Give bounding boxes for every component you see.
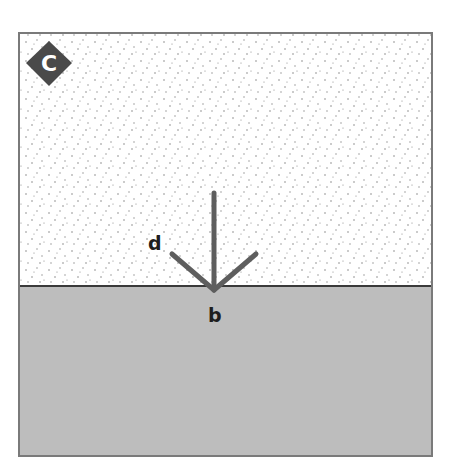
diagram: d b C — [0, 0, 451, 473]
upper-region — [19, 33, 432, 286]
label-d: d — [148, 232, 162, 254]
badge-letter: C — [41, 51, 57, 76]
lower-region — [19, 286, 432, 456]
label-b: b — [208, 304, 222, 326]
